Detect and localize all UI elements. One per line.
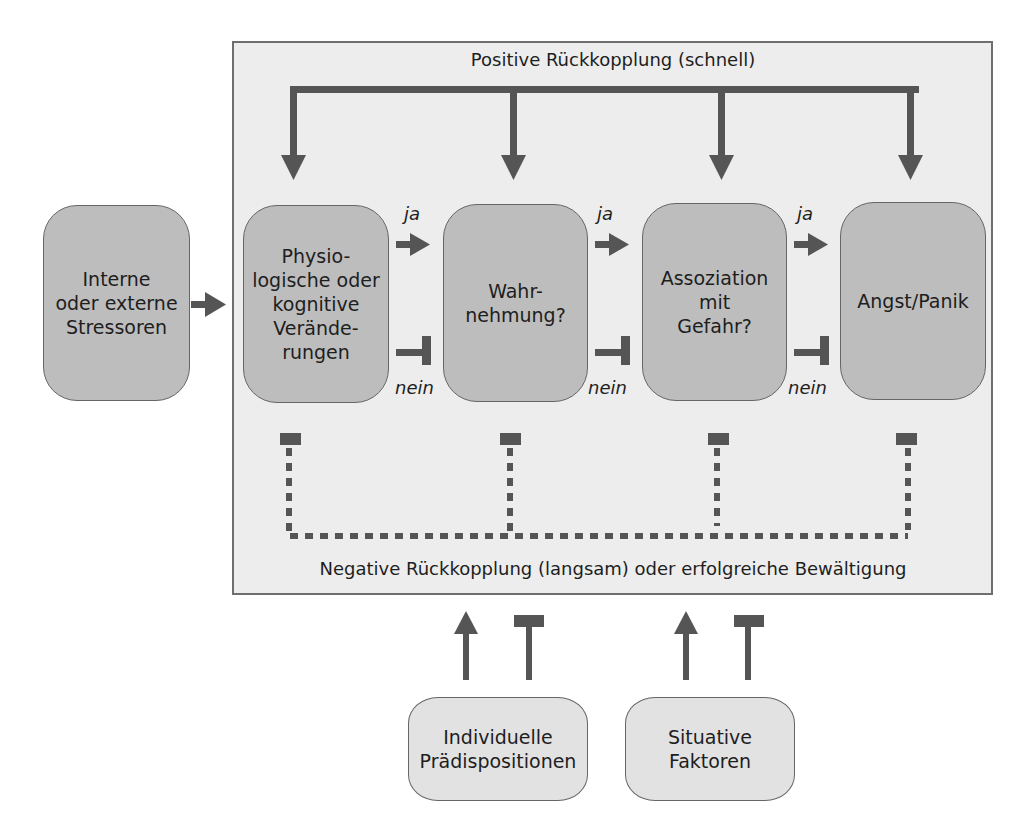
negative-feedback-label: Negative Rückkopplung (langsam) oder erf… bbox=[319, 558, 906, 579]
individual-predispositions-node: Individuelle Prädispositionen bbox=[408, 697, 588, 801]
external-stressors-node: Interne oder externe Stressoren bbox=[43, 205, 190, 401]
stage-danger-association: Assoziation mit Gefahr? bbox=[642, 203, 787, 401]
stage-anxiety-panic: Angst/Panik bbox=[840, 202, 986, 400]
arrow-up-icon bbox=[454, 611, 478, 634]
arrow-up-icon bbox=[674, 611, 698, 634]
situational-factors-node: Situative Faktoren bbox=[625, 697, 795, 801]
yes-label-1: ja bbox=[404, 203, 420, 224]
no-label-3: nein bbox=[788, 377, 827, 398]
positive-feedback-label: Positive Rückkopplung (schnell) bbox=[471, 49, 755, 70]
inhibit-bar-icon bbox=[734, 615, 764, 627]
no-label-1: nein bbox=[395, 377, 434, 398]
stage-physiological-changes: Physio- logische oder kognitive Verände-… bbox=[243, 205, 389, 403]
arrow-right-icon bbox=[205, 292, 226, 317]
yes-label-3: ja bbox=[797, 203, 813, 224]
inhibit-bar-icon bbox=[514, 615, 544, 627]
no-label-2: nein bbox=[588, 377, 627, 398]
yes-label-2: ja bbox=[597, 203, 613, 224]
stage-perception: Wahr- nehmung? bbox=[443, 204, 588, 402]
